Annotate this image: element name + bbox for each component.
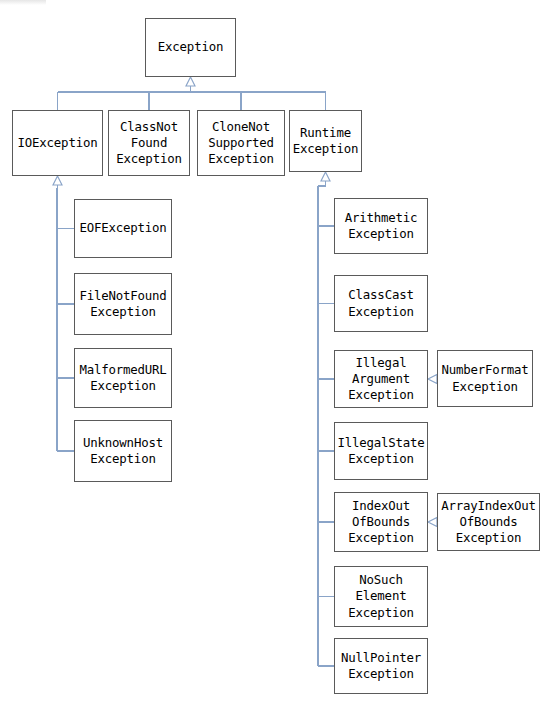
class-box-nullpointer[interactable]: NullPointer Exception <box>334 638 428 694</box>
class-box-label: CloneNot Supported Exception <box>206 119 275 168</box>
class-box-clonenotsupported[interactable]: CloneNot Supported Exception <box>197 110 285 176</box>
class-box-unknownhost[interactable]: UnknownHost Exception <box>74 420 172 482</box>
class-box-label: Illegal Argument Exception <box>346 355 415 404</box>
class-box-label: Runtime Exception <box>291 125 360 157</box>
class-box-eofexception[interactable]: EOFException <box>74 199 172 258</box>
class-box-label: Exception <box>156 39 225 55</box>
class-box-label: NoSuch Element Exception <box>346 572 415 621</box>
class-box-nosuchelement[interactable]: NoSuch Element Exception <box>334 566 428 627</box>
class-box-indexoutofbounds[interactable]: IndexOut OfBounds Exception <box>334 492 428 552</box>
class-box-classcast[interactable]: ClassCast Exception <box>334 275 428 332</box>
class-box-label: IllegalState Exception <box>335 435 426 467</box>
exception-hierarchy-diagram: ExceptionIOExceptionClassNot Found Excep… <box>0 0 544 713</box>
class-box-label: IndexOut OfBounds Exception <box>346 498 415 547</box>
class-box-classnotfound[interactable]: ClassNot Found Exception <box>108 110 190 176</box>
class-box-label: FileNotFound Exception <box>77 288 168 320</box>
class-box-malformedurl[interactable]: MalformedURL Exception <box>74 348 172 408</box>
class-box-label: EOFException <box>77 220 168 236</box>
class-box-illegalstate[interactable]: IllegalState Exception <box>334 422 428 480</box>
class-box-runtimeexception[interactable]: Runtime Exception <box>289 110 362 172</box>
class-box-exception[interactable]: Exception <box>145 18 236 77</box>
class-box-label: IOException <box>16 135 100 151</box>
class-box-arithmetic[interactable]: Arithmetic Exception <box>334 198 428 254</box>
class-box-filenotfound[interactable]: FileNotFound Exception <box>74 273 172 335</box>
class-box-label: ArrayIndexOut OfBounds Exception <box>439 498 537 547</box>
class-box-label: NullPointer Exception <box>339 650 423 682</box>
class-box-label: NumberFormat Exception <box>439 362 530 394</box>
class-box-ioexception[interactable]: IOException <box>12 110 103 176</box>
class-box-label: UnknownHost Exception <box>81 435 165 467</box>
class-box-label: Arithmetic Exception <box>343 210 420 242</box>
class-box-label: MalformedURL Exception <box>77 362 168 394</box>
class-box-arrayindexoutofbounds[interactable]: ArrayIndexOut OfBounds Exception <box>437 493 540 551</box>
class-box-numberformat[interactable]: NumberFormat Exception <box>437 350 533 407</box>
class-box-label: ClassCast Exception <box>346 287 415 319</box>
scan-artifact <box>0 0 46 5</box>
class-box-illegalargument[interactable]: Illegal Argument Exception <box>334 350 428 408</box>
class-box-label: ClassNot Found Exception <box>114 119 183 168</box>
